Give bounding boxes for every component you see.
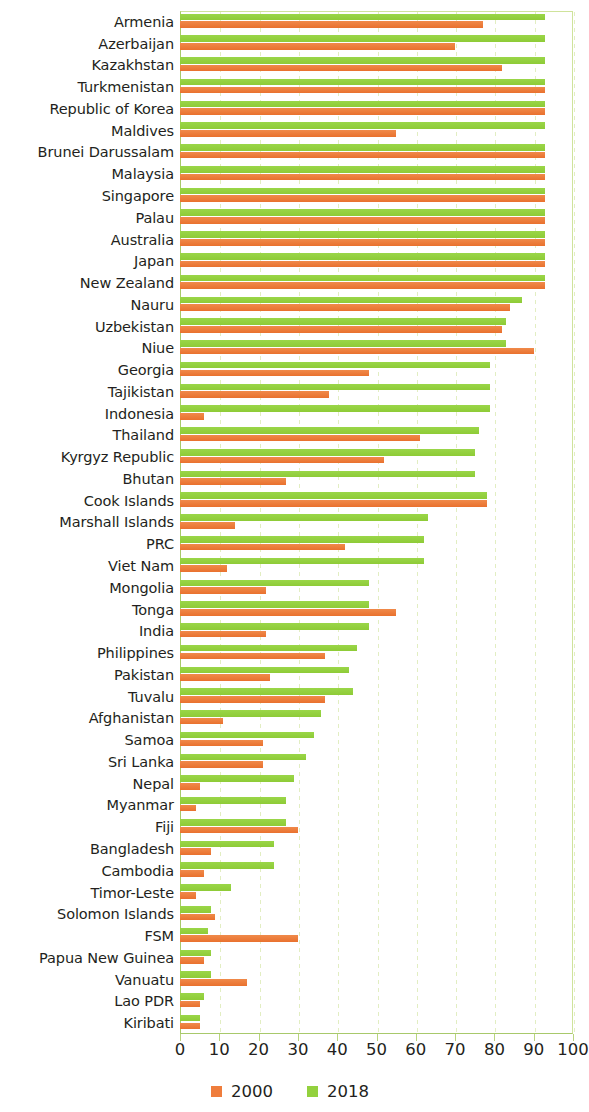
bar-2000 <box>180 848 211 855</box>
bar-2018 <box>180 471 475 478</box>
legend-item[interactable]: 2018 <box>307 1082 369 1101</box>
chart-row: Japan <box>0 250 580 272</box>
category-label: Singapore <box>102 188 174 204</box>
x-tick-label: 10 <box>209 1040 230 1059</box>
x-tick-label: 50 <box>366 1040 387 1059</box>
chart-row: Indonesia <box>0 403 580 425</box>
category-label: Fiji <box>155 819 174 835</box>
x-tick-label: 90 <box>523 1040 544 1059</box>
bar-2018 <box>180 384 490 391</box>
x-tick-label: 40 <box>327 1040 348 1059</box>
category-label: Tuvalu <box>128 689 174 705</box>
x-tick-label: 60 <box>405 1040 426 1059</box>
category-label: FSM <box>144 928 174 944</box>
category-label: Niue <box>141 340 174 356</box>
bar-2018 <box>180 1015 200 1022</box>
bar-2018 <box>180 297 522 304</box>
bar-2018 <box>180 580 369 587</box>
chart-row: Malaysia <box>0 163 580 185</box>
bar-2018 <box>180 601 369 608</box>
chart-row: Cambodia <box>0 860 580 882</box>
chart-row: Afghanistan <box>0 708 580 730</box>
category-label: Kazakhstan <box>91 57 174 73</box>
bar-2018 <box>180 884 231 891</box>
bar-2018 <box>180 275 545 282</box>
chart-row: Thailand <box>0 425 580 447</box>
bar-2000 <box>180 326 502 333</box>
category-label: Myanmar <box>107 797 174 813</box>
bar-2000 <box>180 609 396 616</box>
category-label: Afghanistan <box>89 710 174 726</box>
category-label: Maldives <box>111 123 174 139</box>
category-label: Azerbaijan <box>98 36 174 52</box>
x-tick-label: 70 <box>445 1040 466 1059</box>
bar-2000 <box>180 653 325 660</box>
bar-2000 <box>180 587 266 594</box>
bar-2018 <box>180 79 545 86</box>
bar-2018 <box>180 841 274 848</box>
bar-2018 <box>180 492 487 499</box>
chart-row: Uzbekistan <box>0 316 580 338</box>
bar-2018 <box>180 57 545 64</box>
bar-2018 <box>180 536 424 543</box>
category-label: Vanuatu <box>115 972 174 988</box>
bar-2000 <box>180 500 487 507</box>
bar-2018 <box>180 188 545 195</box>
bar-2000 <box>180 43 455 50</box>
category-label: Australia <box>111 232 174 248</box>
legend-label: 2018 <box>327 1082 369 1101</box>
bar-2018 <box>180 14 545 21</box>
bar-2000 <box>180 348 534 355</box>
category-label: Georgia <box>118 362 174 378</box>
category-label: Solomon Islands <box>57 906 174 922</box>
bar-2000 <box>180 391 329 398</box>
category-label: Kiribati <box>123 1015 174 1031</box>
bar-2000 <box>180 979 247 986</box>
bar-2000 <box>180 870 204 877</box>
chart-row: Turkmenistan <box>0 76 580 98</box>
bar-2000 <box>180 457 384 464</box>
chart-row: Vanuatu <box>0 969 580 991</box>
chart-row: Solomon Islands <box>0 903 580 925</box>
bar-2000 <box>180 914 215 921</box>
chart-row: Palau <box>0 207 580 229</box>
x-tick-label: 20 <box>248 1040 269 1059</box>
bar-2018 <box>180 906 211 913</box>
chart-row: Cook Islands <box>0 490 580 512</box>
x-axis-tick-labels: 0102030405060708090100 <box>0 1040 580 1066</box>
category-label: Uzbekistan <box>95 319 174 335</box>
chart-row: Maldives <box>0 120 580 142</box>
category-label: Pakistan <box>114 667 174 683</box>
bar-2018 <box>180 166 545 173</box>
bar-2000 <box>180 282 545 289</box>
bar-2018 <box>180 122 545 129</box>
bar-2000 <box>180 783 200 790</box>
bar-2000 <box>180 805 196 812</box>
category-label: PRC <box>146 536 174 552</box>
category-label: Republic of Korea <box>49 101 174 117</box>
bar-2000 <box>180 1023 200 1030</box>
bar-2018 <box>180 253 545 260</box>
bar-2000 <box>180 740 263 747</box>
chart-row: PRC <box>0 533 580 555</box>
bar-2018 <box>180 144 545 151</box>
category-label: Malaysia <box>111 166 174 182</box>
chart-row: Brunei Darussalam <box>0 142 580 164</box>
bar-2018 <box>180 819 286 826</box>
category-label: Marshall Islands <box>59 514 174 530</box>
chart-row: Nauru <box>0 294 580 316</box>
legend-swatch-icon <box>211 1086 222 1097</box>
category-label: Philippines <box>97 645 174 661</box>
x-tick-label: 0 <box>175 1040 186 1059</box>
chart-row: Pakistan <box>0 664 580 686</box>
category-label: Tonga <box>132 602 174 618</box>
bar-2000 <box>180 935 298 942</box>
category-label: Kyrgyz Republic <box>61 449 174 465</box>
bar-2000 <box>180 65 502 72</box>
chart-row: Kyrgyz Republic <box>0 446 580 468</box>
category-label: Brunei Darussalam <box>38 144 174 160</box>
chart-row: Tonga <box>0 599 580 621</box>
category-label: India <box>139 623 174 639</box>
bar-2018 <box>180 623 369 630</box>
legend-item[interactable]: 2000 <box>211 1082 273 1101</box>
